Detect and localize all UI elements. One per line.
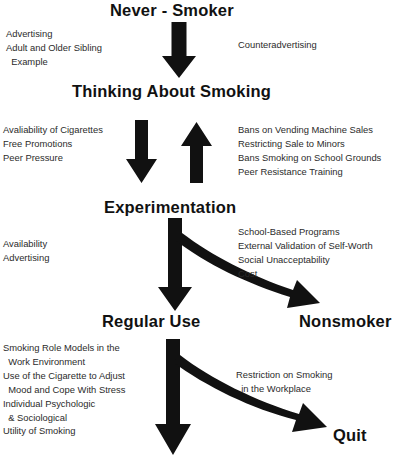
arrow-experimentation-to-thinking — [181, 122, 212, 183]
stage-quit: Quit — [333, 427, 367, 444]
note-never-to-thinking-right: Counteradvertising — [238, 38, 317, 52]
arrow-never-to-thinking — [162, 22, 196, 78]
stage-never-smoker: Never - Smoker — [110, 2, 234, 19]
stage-experimentation: Experimentation — [104, 199, 236, 216]
arrow-thinking-to-experimentation — [126, 120, 157, 183]
flowchart-diagram: Never - Smoker Thinking About Smoking Ex… — [0, 0, 411, 467]
note-never-to-thinking-left: Advertising Adult and Older Sibling Exam… — [6, 27, 102, 69]
stage-nonsmoker: Nonsmoker — [299, 313, 392, 330]
note-regular-use-left: Smoking Role Models in the Work Environm… — [3, 341, 125, 438]
note-experimentation-to-regular-left: Availability Advertising — [3, 237, 49, 265]
note-thinking-to-experimentation-left: Avaliability of Cigarettes Free Promotio… — [3, 123, 103, 165]
arrow-regular-use-down — [155, 339, 191, 455]
stage-thinking-about-smoking: Thinking About Smoking — [72, 83, 271, 100]
arrow-experimentation-to-regular-use — [158, 218, 192, 311]
note-experimentation-to-nonsmoker-right: School-Based Programs External Validatio… — [238, 225, 373, 281]
stage-regular-use: Regular Use — [102, 313, 201, 330]
note-regular-to-quit-right: Restriction on Smoking in the Workplace — [236, 368, 332, 396]
note-experimentation-to-thinking-right: Bans on Vending Machine Sales Restrictin… — [238, 123, 381, 179]
